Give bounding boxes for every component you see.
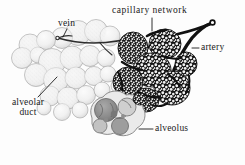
alveoli-capillary-diagram: capillary network vein artery alveolar d… — [0, 0, 245, 165]
illustration-artwork — [0, 0, 245, 165]
